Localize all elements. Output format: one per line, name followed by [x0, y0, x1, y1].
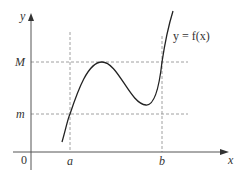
x-axis-label: x: [227, 153, 234, 167]
y-axis-label: y: [19, 9, 26, 23]
function-graph-diagram: y x 0 M m a b y = f(x): [0, 0, 247, 175]
b-label: b: [159, 154, 165, 168]
a-label: a: [67, 154, 73, 168]
function-label: y = f(x): [173, 29, 210, 43]
y-axis-arrow-icon: [28, 13, 34, 21]
origin-label: 0: [21, 153, 27, 167]
function-curve: [62, 11, 173, 142]
max-value-label: M: [14, 55, 26, 69]
min-value-label: m: [16, 107, 25, 121]
